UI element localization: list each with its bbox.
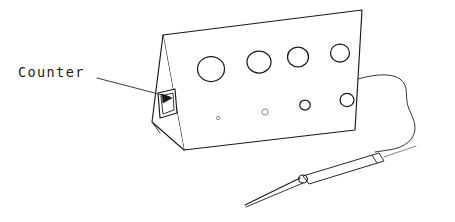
figure-canvas: Counter: [0, 0, 455, 222]
probe-barrel: [303, 153, 384, 184]
probe-cable-tail: [384, 146, 416, 157]
counter-label: Counter: [18, 64, 85, 80]
counter-display-window[interactable]: [158, 89, 177, 118]
instrument-enclosure: [152, 10, 362, 150]
counter-panel-sketch: Counter: [0, 0, 455, 222]
probe-needle-tip-edge: [246, 183, 303, 207]
probe-needle-tip: [245, 178, 300, 205]
probe-cable: [358, 75, 415, 152]
handheld-probe[interactable]: [245, 146, 416, 207]
